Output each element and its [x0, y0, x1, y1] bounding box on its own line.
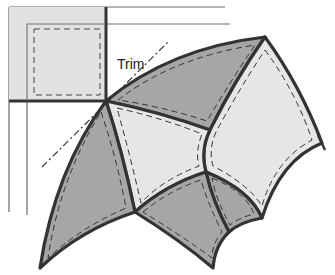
trim-label: Trim — [117, 56, 144, 72]
corner-square — [9, 7, 106, 101]
quilt-diagram — [0, 0, 335, 275]
